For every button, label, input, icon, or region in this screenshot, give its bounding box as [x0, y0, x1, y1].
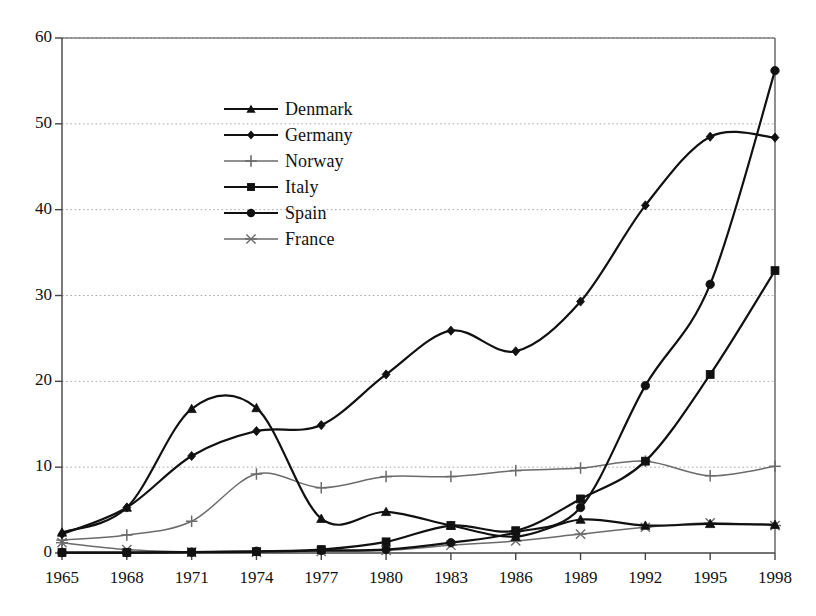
chart-legend: DenmarkGermanyNorwayItalySpainFrance [222, 96, 382, 252]
series-marker-germany [252, 427, 260, 436]
x-axis-tick-label: 1983 [416, 568, 486, 588]
legend-marker-star-icon [222, 229, 280, 249]
series-marker-spain [382, 545, 390, 553]
legend-marker-diamond-icon [222, 125, 280, 145]
legend-item-france[interactable]: France [222, 226, 382, 252]
series-marker-spain [771, 66, 779, 74]
legend-item-spain[interactable]: Spain [222, 200, 382, 226]
x-axis-tick-label: 1995 [675, 568, 745, 588]
plot-area [0, 0, 816, 616]
x-axis-tick-label: 1980 [351, 568, 421, 588]
series-marker-spain [252, 547, 260, 555]
y-axis-tick-label: 10 [8, 456, 52, 476]
series-marker-germany [512, 347, 520, 356]
legend-item-norway[interactable]: Norway [222, 148, 382, 174]
series-marker-spain [187, 548, 195, 556]
legend-marker-square-icon [222, 177, 280, 197]
y-axis-tick-label: 30 [8, 285, 52, 305]
y-axis-tick-label: 50 [8, 113, 52, 133]
series-line-spain [62, 71, 775, 553]
legend-label: Italy [280, 177, 319, 198]
x-axis-tick-label: 1968 [92, 568, 162, 588]
series-marker-spain [706, 280, 714, 288]
legend-marker-triangle-icon [222, 99, 280, 119]
legend-label: Germany [280, 125, 353, 146]
series-marker-germany [188, 451, 196, 460]
series-marker-italy [641, 457, 649, 465]
series-marker-germany [771, 133, 779, 142]
x-axis-tick-label: 1998 [740, 568, 810, 588]
legend-marker-circle-icon [222, 203, 280, 223]
series-marker-italy [771, 267, 779, 275]
legend-label: Denmark [280, 99, 353, 120]
series-marker-germany [447, 326, 455, 335]
series-marker-italy [577, 495, 585, 503]
legend-label: France [280, 229, 335, 250]
line-chart: DenmarkGermanyNorwayItalySpainFrance 010… [0, 0, 816, 616]
series-marker-italy [382, 538, 390, 546]
series-marker-spain [447, 538, 455, 546]
x-axis-tick-label: 1965 [27, 568, 97, 588]
series-marker-spain [123, 548, 131, 556]
legend-item-denmark[interactable]: Denmark [222, 96, 382, 122]
series-marker-germany [317, 421, 325, 430]
legend-label: Spain [280, 203, 327, 224]
y-axis-tick-label: 60 [8, 27, 52, 47]
y-axis-tick-label: 20 [8, 370, 52, 390]
series-marker-italy [706, 371, 714, 379]
x-axis-tick-label: 1977 [286, 568, 356, 588]
x-axis-tick-label: 1986 [481, 568, 551, 588]
y-axis-tick-label: 0 [8, 542, 52, 562]
series-marker-spain [576, 503, 584, 511]
x-axis-tick-label: 1974 [221, 568, 291, 588]
x-axis-tick-label: 1971 [157, 568, 227, 588]
legend-label: Norway [280, 151, 344, 172]
legend-item-italy[interactable]: Italy [222, 174, 382, 200]
series-line-italy [62, 271, 775, 553]
x-axis-tick-label: 1992 [610, 568, 680, 588]
series-line-germany [62, 132, 775, 534]
legend-item-germany[interactable]: Germany [222, 122, 382, 148]
series-marker-spain [58, 548, 66, 556]
series-marker-spain [317, 546, 325, 554]
series-marker-germany [706, 132, 714, 141]
series-marker-spain [641, 381, 649, 389]
series-line-france [62, 523, 775, 552]
x-axis-tick-label: 1989 [546, 568, 616, 588]
y-axis-tick-label: 40 [8, 199, 52, 219]
legend-marker-plus-icon [222, 151, 280, 171]
